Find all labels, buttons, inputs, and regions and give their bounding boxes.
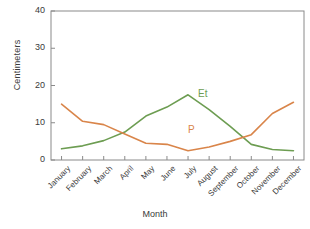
y-tick-label: 30 (21, 42, 45, 52)
chart-container: Centimeters Month 010203040 JanuaryFebru… (0, 0, 310, 229)
plot-frame (51, 11, 304, 160)
y-axis-ticks (51, 11, 55, 160)
y-axis-title: Centimeters (12, 20, 22, 110)
series-annotation-p: P (188, 124, 195, 135)
series-line-p (62, 102, 294, 150)
y-tick-label: 40 (21, 5, 45, 15)
y-tick-label: 0 (21, 154, 45, 164)
series-annotation-et: Et (198, 88, 207, 99)
y-tick-label: 20 (21, 80, 45, 90)
y-tick-label: 10 (21, 117, 45, 127)
x-axis-ticks (62, 156, 294, 160)
